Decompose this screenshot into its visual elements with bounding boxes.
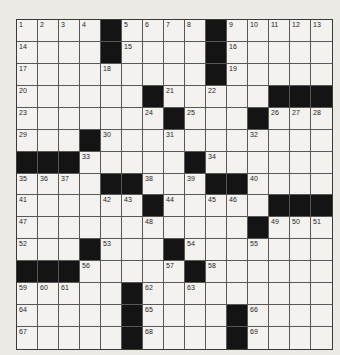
grid-cell[interactable] — [122, 152, 143, 174]
grid-cell[interactable]: 17 — [17, 64, 38, 86]
grid-cell[interactable] — [248, 42, 269, 64]
grid-cell[interactable]: 40 — [248, 174, 269, 196]
grid-cell[interactable] — [269, 327, 290, 349]
grid-cell[interactable] — [290, 283, 311, 305]
grid-cell[interactable] — [38, 239, 59, 261]
grid-cell[interactable]: 18 — [101, 64, 122, 86]
grid-cell[interactable] — [80, 174, 101, 196]
grid-cell[interactable]: 57 — [164, 261, 185, 283]
grid-cell[interactable] — [101, 305, 122, 327]
grid-cell[interactable]: 16 — [227, 42, 248, 64]
grid-cell[interactable] — [269, 42, 290, 64]
grid-cell[interactable] — [311, 174, 332, 196]
grid-cell[interactable]: 20 — [17, 86, 38, 108]
grid-cell[interactable] — [101, 108, 122, 130]
grid-cell[interactable] — [143, 152, 164, 174]
grid-cell[interactable] — [290, 327, 311, 349]
grid-cell[interactable]: 61 — [59, 283, 80, 305]
grid-cell[interactable]: 51 — [311, 217, 332, 239]
grid-cell[interactable] — [38, 130, 59, 152]
grid-cell[interactable] — [185, 305, 206, 327]
grid-cell[interactable] — [185, 42, 206, 64]
grid-cell[interactable] — [248, 152, 269, 174]
grid-cell[interactable] — [290, 261, 311, 283]
grid-cell[interactable]: 42 — [101, 195, 122, 217]
grid-cell[interactable] — [185, 327, 206, 349]
grid-cell[interactable] — [206, 305, 227, 327]
grid-cell[interactable] — [248, 86, 269, 108]
grid-cell[interactable] — [311, 305, 332, 327]
grid-cell[interactable] — [59, 86, 80, 108]
grid-cell[interactable]: 19 — [227, 64, 248, 86]
grid-cell[interactable]: 68 — [143, 327, 164, 349]
grid-cell[interactable]: 25 — [185, 108, 206, 130]
grid-cell[interactable] — [269, 130, 290, 152]
grid-cell[interactable]: 41 — [17, 195, 38, 217]
grid-cell[interactable] — [80, 86, 101, 108]
grid-cell[interactable] — [80, 195, 101, 217]
grid-cell[interactable]: 36 — [38, 174, 59, 196]
grid-cell[interactable] — [290, 239, 311, 261]
grid-cell[interactable] — [122, 64, 143, 86]
grid-cell[interactable] — [227, 261, 248, 283]
grid-cell[interactable] — [143, 239, 164, 261]
grid-cell[interactable] — [227, 108, 248, 130]
grid-cell[interactable] — [248, 64, 269, 86]
grid-cell[interactable] — [80, 108, 101, 130]
grid-cell[interactable] — [59, 64, 80, 86]
grid-cell[interactable]: 66 — [248, 305, 269, 327]
grid-cell[interactable] — [122, 86, 143, 108]
grid-cell[interactable] — [311, 261, 332, 283]
grid-cell[interactable]: 67 — [17, 327, 38, 349]
grid-cell[interactable] — [122, 239, 143, 261]
grid-cell[interactable]: 5 — [122, 20, 143, 42]
grid-cell[interactable]: 46 — [227, 195, 248, 217]
grid-cell[interactable] — [59, 195, 80, 217]
grid-cell[interactable] — [38, 42, 59, 64]
grid-cell[interactable]: 31 — [164, 130, 185, 152]
grid-cell[interactable] — [227, 217, 248, 239]
grid-cell[interactable] — [311, 42, 332, 64]
grid-cell[interactable] — [206, 239, 227, 261]
grid-cell[interactable] — [80, 42, 101, 64]
grid-cell[interactable]: 22 — [206, 86, 227, 108]
grid-cell[interactable]: 2 — [38, 20, 59, 42]
grid-cell[interactable] — [290, 305, 311, 327]
grid-cell[interactable] — [38, 305, 59, 327]
grid-cell[interactable] — [185, 217, 206, 239]
grid-cell[interactable] — [80, 327, 101, 349]
grid-cell[interactable]: 52 — [17, 239, 38, 261]
grid-cell[interactable]: 4 — [80, 20, 101, 42]
grid-cell[interactable] — [206, 130, 227, 152]
grid-cell[interactable]: 8 — [185, 20, 206, 42]
grid-cell[interactable] — [101, 152, 122, 174]
grid-cell[interactable] — [38, 64, 59, 86]
grid-cell[interactable]: 37 — [59, 174, 80, 196]
grid-cell[interactable] — [122, 108, 143, 130]
grid-cell[interactable] — [59, 327, 80, 349]
grid-cell[interactable]: 64 — [17, 305, 38, 327]
grid-cell[interactable]: 7 — [164, 20, 185, 42]
grid-cell[interactable]: 62 — [143, 283, 164, 305]
grid-cell[interactable] — [164, 42, 185, 64]
grid-cell[interactable] — [290, 42, 311, 64]
grid-cell[interactable] — [143, 64, 164, 86]
grid-cell[interactable]: 21 — [164, 86, 185, 108]
grid-cell[interactable] — [185, 130, 206, 152]
grid-cell[interactable]: 55 — [248, 239, 269, 261]
grid-cell[interactable] — [59, 42, 80, 64]
grid-cell[interactable]: 10 — [248, 20, 269, 42]
grid-cell[interactable] — [164, 327, 185, 349]
grid-cell[interactable] — [269, 239, 290, 261]
grid-cell[interactable] — [311, 283, 332, 305]
grid-cell[interactable]: 50 — [290, 217, 311, 239]
grid-cell[interactable]: 9 — [227, 20, 248, 42]
grid-cell[interactable] — [101, 261, 122, 283]
grid-cell[interactable]: 34 — [206, 152, 227, 174]
grid-cell[interactable] — [164, 305, 185, 327]
grid-cell[interactable] — [290, 152, 311, 174]
grid-cell[interactable]: 14 — [17, 42, 38, 64]
grid-cell[interactable]: 60 — [38, 283, 59, 305]
grid-cell[interactable] — [143, 261, 164, 283]
grid-cell[interactable]: 44 — [164, 195, 185, 217]
